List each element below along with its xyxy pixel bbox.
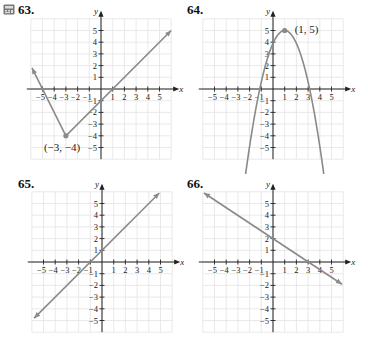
svg-text:−3: −3 [231, 265, 240, 275]
svg-text:−1: −1 [88, 96, 97, 106]
svg-text:(1, 5): (1, 5) [295, 23, 319, 36]
point-marker [63, 133, 68, 138]
svg-text:−5: −5 [260, 316, 269, 326]
svg-text:5: 5 [157, 92, 161, 102]
svg-text:4: 4 [147, 265, 152, 275]
svg-text:−4: −4 [260, 131, 270, 141]
svg-text:2: 2 [93, 61, 97, 71]
svg-text:y: y [265, 6, 270, 16]
svg-text:−5: −5 [88, 143, 97, 153]
arrow-icon [270, 184, 275, 190]
svg-text:−3: −3 [59, 92, 68, 102]
svg-text:y: y [265, 179, 270, 189]
svg-text:−5: −5 [208, 92, 217, 102]
svg-text:1: 1 [111, 92, 115, 102]
svg-text:−4: −4 [48, 92, 58, 102]
svg-text:−4: −4 [260, 304, 270, 314]
svg-text:y: y [94, 179, 99, 189]
graph-65: xy−5−4−3−2−112345−5−4−3−2−112345 65. [0, 174, 184, 348]
svg-text:−2: −2 [260, 280, 269, 290]
arrow-icon [99, 184, 104, 190]
problem-number: 65. [18, 176, 34, 192]
svg-text:1: 1 [94, 245, 98, 255]
svg-text:−3: −3 [88, 119, 97, 129]
svg-text:−3: −3 [231, 92, 240, 102]
arrow-icon [98, 11, 103, 17]
graph-66-canvas: xy−5−4−3−2−112345−5−4−3−2−112345 [184, 174, 368, 348]
svg-text:3: 3 [306, 265, 310, 275]
svg-text:2: 2 [94, 234, 98, 244]
svg-text:−2: −2 [243, 92, 252, 102]
svg-text:2: 2 [122, 92, 126, 102]
svg-text:1: 1 [265, 72, 269, 82]
svg-text:4: 4 [318, 92, 323, 102]
arrow-icon [270, 11, 275, 17]
svg-text:−2: −2 [243, 265, 252, 275]
svg-text:5: 5 [265, 199, 269, 209]
svg-text:−5: −5 [260, 143, 269, 153]
svg-text:3: 3 [93, 49, 97, 59]
svg-text:−5: −5 [36, 92, 45, 102]
svg-text:5: 5 [158, 265, 162, 275]
graph-64: xy−5−4−3−2−112345−5−4−3−2−112345(1, 5) 6… [184, 0, 368, 174]
svg-text:1: 1 [265, 245, 269, 255]
svg-text:5: 5 [329, 92, 333, 102]
svg-text:x: x [350, 84, 355, 94]
graph-66: xy−5−4−3−2−112345−5−4−3−2−112345 66. [184, 174, 368, 348]
svg-text:−3: −3 [60, 265, 69, 275]
svg-text:2: 2 [123, 265, 127, 275]
svg-text:−4: −4 [88, 131, 98, 141]
svg-text:3: 3 [135, 265, 139, 275]
svg-text:−4: −4 [220, 265, 230, 275]
svg-text:(−3, −4): (−3, −4) [44, 141, 81, 154]
graph-64-canvas: xy−5−4−3−2−112345−5−4−3−2−112345(1, 5) [184, 0, 368, 174]
problem-number: 66. [187, 176, 203, 192]
svg-text:5: 5 [94, 199, 98, 209]
svg-text:−4: −4 [220, 92, 230, 102]
svg-text:−4: −4 [49, 265, 59, 275]
svg-text:2: 2 [294, 92, 298, 102]
graph-63: xy−5−4−3−2−112345−5−4−3−2−112345(−3, −4)… [0, 0, 184, 174]
graph-63-canvas: xy−5−4−3−2−112345−5−4−3−2−112345(−3, −4) [0, 0, 184, 174]
svg-text:y: y [93, 6, 98, 16]
svg-text:−2: −2 [260, 107, 269, 117]
svg-text:5: 5 [93, 26, 97, 36]
svg-text:3: 3 [265, 222, 269, 232]
svg-text:−4: −4 [89, 304, 99, 314]
svg-text:4: 4 [146, 92, 151, 102]
svg-text:−5: −5 [37, 265, 46, 275]
svg-text:−1: −1 [260, 269, 269, 279]
svg-text:1: 1 [283, 265, 287, 275]
svg-text:1: 1 [283, 92, 287, 102]
svg-text:x: x [350, 257, 355, 267]
graph-curve [32, 31, 171, 136]
svg-text:3: 3 [134, 92, 138, 102]
svg-text:1: 1 [93, 72, 97, 82]
svg-text:3: 3 [306, 92, 310, 102]
svg-text:−3: −3 [260, 119, 269, 129]
svg-text:−1: −1 [89, 269, 98, 279]
svg-text:−3: −3 [89, 292, 98, 302]
svg-text:−2: −2 [89, 280, 98, 290]
svg-text:−5: −5 [208, 265, 217, 275]
svg-text:−3: −3 [260, 292, 269, 302]
graph-65-canvas: xy−5−4−3−2−112345−5−4−3−2−112345 [0, 174, 184, 348]
svg-text:−1: −1 [260, 96, 269, 106]
svg-text:3: 3 [94, 222, 98, 232]
problem-number: 63. [18, 2, 34, 18]
svg-text:2: 2 [294, 265, 298, 275]
problem-number: 64. [187, 2, 203, 18]
point-marker [282, 28, 287, 33]
svg-text:5: 5 [329, 265, 333, 275]
svg-text:5: 5 [265, 26, 269, 36]
svg-text:−5: −5 [89, 316, 98, 326]
svg-text:1: 1 [112, 265, 116, 275]
calculator-icon [3, 4, 15, 15]
svg-text:x: x [178, 84, 183, 94]
svg-text:−2: −2 [71, 92, 80, 102]
